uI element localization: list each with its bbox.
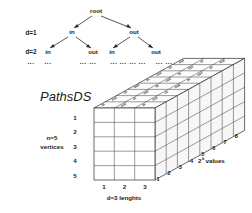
tree-node-out-d2-1: out xyxy=(88,48,98,55)
left-axis-tick-5: 5 xyxy=(73,172,77,179)
depth-axis-tick-1: 1 xyxy=(156,176,159,182)
pathsds-title: PathsDS xyxy=(40,89,92,104)
arrowhead-icon xyxy=(74,24,79,28)
tree-node-out-d1: out xyxy=(129,28,139,35)
bottom-axis: 1 2 3 d=3 lenghts xyxy=(102,183,147,201)
left-axis-tick-2: 2 xyxy=(73,128,77,135)
left-axis-tick-3: 3 xyxy=(73,143,77,150)
left-axis-label-line2: vertices xyxy=(40,143,64,150)
cuboid-front-face xyxy=(94,108,155,180)
front-face-plane xyxy=(94,108,155,180)
tree-depth-label-2: d=2 xyxy=(25,48,37,55)
bottom-axis-tick-3: 3 xyxy=(143,183,147,190)
tree-node-in-d2-1: in xyxy=(45,48,51,55)
tree-node-in-d2-2: in xyxy=(109,48,115,55)
depth-axis-tick-7: 7 xyxy=(224,139,227,145)
left-axis-tick-4: 4 xyxy=(73,157,77,164)
depth-axis-tick-3: 3 xyxy=(179,164,182,170)
bottom-axis-tick-2: 2 xyxy=(123,183,127,190)
tree-depth-label-1: d=1 xyxy=(25,29,37,36)
depth-axis-label: 2 k values xyxy=(198,156,225,165)
depth-axis-tick-8: 8 xyxy=(235,133,238,139)
pathsds-figure: root in out in out in out d=1 d=2 .. xyxy=(0,0,252,213)
left-axis: 1 2 3 4 5 n=5 vertices xyxy=(40,114,77,179)
left-axis-tick-1: 1 xyxy=(73,114,77,121)
depth-axis-label-tail: values xyxy=(206,157,226,164)
bottom-axis-label: d=3 lenghts xyxy=(107,194,142,201)
tree-diagram: root in out in out in out d=1 d=2 .. xyxy=(25,7,172,65)
tree-ellipsis-3: ... ... ... ... xyxy=(110,58,146,65)
tree-edge-root-out xyxy=(101,16,131,28)
tree-ellipsis-4: ... ... xyxy=(156,58,173,65)
depth-axis-tick-6: 6 xyxy=(212,145,215,151)
figure-canvas: root in out in out in out d=1 d=2 .. xyxy=(0,0,252,213)
tree-ellipsis-1: ... xyxy=(44,58,51,65)
tree-node-out-d2-2: out xyxy=(151,48,161,55)
arrowhead-icon xyxy=(50,44,55,48)
cuboid-grid: in out in out in out in out in out in ou… xyxy=(40,58,244,201)
tree-root-label: root xyxy=(90,7,102,14)
tree-depth-label-ellipsis: ... xyxy=(27,58,34,65)
tree-ellipsis-2: ... ... xyxy=(80,58,97,65)
tree-node-in-d1: in xyxy=(69,28,75,35)
depth-axis-tick-2: 2 xyxy=(167,170,170,176)
bottom-axis-tick-1: 1 xyxy=(102,183,106,190)
left-axis-label-line1: n=5 xyxy=(47,134,58,141)
